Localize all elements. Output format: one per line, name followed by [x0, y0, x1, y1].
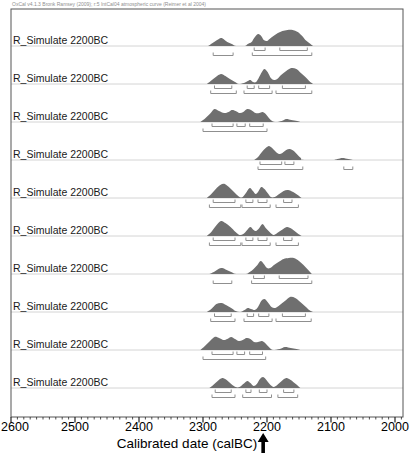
range-bracket-68: [250, 352, 263, 355]
range-bracket-68: [259, 390, 267, 393]
range-bracket-68: [246, 238, 253, 241]
range-bracket-95: [244, 319, 272, 322]
axis-tick-label: 2300: [189, 420, 217, 434]
range-bracket-68: [212, 124, 233, 127]
range-bracket-95: [209, 243, 240, 246]
range-bracket-95: [344, 167, 353, 170]
range-bracket-68: [280, 48, 308, 51]
range-bracket-68: [237, 124, 245, 127]
range-bracket-68: [279, 276, 308, 279]
range-bracket-95: [211, 319, 235, 322]
range-bracket-95: [242, 205, 270, 208]
range-bracket-95: [278, 395, 298, 398]
range-bracket-68: [246, 200, 253, 203]
range-bracket-68: [212, 352, 233, 355]
range-bracket-95: [243, 395, 272, 398]
row-label: R_Simulate 2200BC: [13, 110, 108, 122]
range-bracket-68: [259, 86, 270, 89]
range-bracket-68: [215, 86, 232, 89]
range-bracket-95: [203, 357, 266, 360]
probability-distribution: [207, 184, 302, 198]
axis-tick-label: 2400: [125, 420, 153, 434]
range-bracket-95: [213, 53, 233, 56]
row-label: R_Simulate 2200BC: [13, 34, 108, 46]
range-bracket-68: [213, 238, 235, 241]
range-bracket-68: [254, 276, 265, 279]
range-bracket-68: [254, 48, 265, 51]
range-bracket-68: [284, 390, 294, 393]
probability-distribution: [209, 258, 311, 274]
probability-distribution: [207, 297, 313, 312]
range-bracket-68: [258, 238, 267, 241]
range-bracket-95: [209, 205, 240, 208]
range-bracket-68: [282, 314, 305, 317]
range-bracket-95: [276, 243, 298, 246]
range-bracket-95: [244, 91, 272, 94]
range-bracket-95: [276, 319, 311, 322]
axis-tick-label: 2100: [317, 420, 345, 434]
row-label: R_Simulate 2200BC: [13, 300, 108, 312]
range-bracket-68: [246, 390, 251, 393]
probability-distribution: [200, 109, 300, 122]
range-bracket-95: [276, 205, 298, 208]
range-bracket-68: [213, 200, 235, 203]
oxcal-multiplot: OxCal v4.1.3 Bronk Ramsey (2009); r:5 In…: [0, 0, 410, 466]
row-label: R_Simulate 2200BC: [13, 224, 108, 236]
range-bracket-95: [242, 243, 270, 246]
row-label: R_Simulate 2200BC: [13, 148, 108, 160]
range-bracket-95: [213, 281, 232, 284]
probability-distribution: [207, 68, 313, 84]
range-bracket-68: [247, 86, 254, 89]
range-bracket-95: [212, 395, 235, 398]
probability-distribution: [209, 377, 300, 388]
range-bracket-68: [215, 390, 231, 393]
probability-distribution: [208, 30, 313, 46]
range-bracket-68: [284, 200, 292, 203]
range-bracket-68: [250, 124, 264, 127]
plot-frame: [11, 9, 403, 417]
range-bracket-95: [258, 167, 303, 170]
range-bracket-95: [211, 91, 237, 94]
range-bracket-68: [282, 86, 305, 89]
x-axis-title: Calibrated date (calBC): [117, 436, 257, 451]
range-bracket-68: [259, 314, 269, 317]
range-bracket-68: [285, 162, 294, 165]
range-bracket-68: [237, 352, 245, 355]
range-bracket-95: [252, 281, 312, 284]
probability-distribution: [200, 337, 300, 350]
axis-tick-label: 2600: [1, 420, 29, 434]
range-bracket-68: [284, 238, 292, 241]
range-bracket-68: [215, 314, 232, 317]
axis-tick-label: 2000: [381, 420, 409, 434]
row-label: R_Simulate 2200BC: [13, 338, 108, 350]
axis-tick-label: 2200: [253, 420, 281, 434]
row-label: R_Simulate 2200BC: [13, 72, 108, 84]
row-label: R_Simulate 2200BC: [13, 262, 108, 274]
up-arrow-icon: [258, 433, 269, 453]
row-label: R_Simulate 2200BC: [13, 376, 108, 388]
range-bracket-68: [260, 162, 282, 165]
range-bracket-95: [276, 91, 312, 94]
probability-distribution: [207, 221, 302, 236]
range-bracket-68: [258, 200, 267, 203]
axis-tick-label: 2500: [61, 420, 89, 434]
probability-distribution: [254, 146, 353, 160]
range-bracket-95: [203, 129, 267, 132]
range-bracket-95: [252, 53, 311, 56]
range-bracket-68: [247, 314, 253, 317]
row-label: R_Simulate 2200BC: [13, 186, 108, 198]
